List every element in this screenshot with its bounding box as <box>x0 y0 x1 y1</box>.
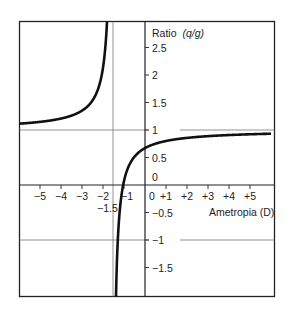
asymptote-label: −1.5 <box>97 202 118 214</box>
axes <box>20 22 275 297</box>
y-tick-label: 1 <box>152 124 158 136</box>
y-tick-label: 0 <box>152 171 158 183</box>
reference-lines <box>20 22 275 297</box>
x-tick-label: −3 <box>76 190 88 202</box>
y-tick-label: 2 <box>152 69 158 81</box>
y-axis-label: Ratio(q/g) <box>152 27 204 39</box>
y-tick-label: −0.5 <box>152 207 173 219</box>
x-tick-label: +5 <box>244 190 256 202</box>
y-tick-label: −1 <box>152 234 164 246</box>
y-tick-label: 1.5 <box>152 97 167 109</box>
curve-branch <box>116 134 271 306</box>
chart: −5−4−3−2−10+1+2+3+4+52.521.510.50−0.5−1−… <box>0 0 287 311</box>
x-tick-label: +4 <box>223 190 235 202</box>
x-tick-label: +2 <box>181 190 193 202</box>
x-tick-label: +3 <box>202 190 214 202</box>
x-tick-label: −5 <box>34 190 46 202</box>
y-tick-label: −1.5 <box>152 262 173 274</box>
x-axis-label: Ametropia (D) <box>209 206 274 218</box>
x-tick-label: 0 <box>149 190 155 202</box>
plot-frame <box>20 22 275 297</box>
y-tick-label: 0.5 <box>152 152 167 164</box>
x-tick-label: −4 <box>55 190 67 202</box>
x-tick-label: −2 <box>97 190 109 202</box>
curve-branch <box>19 0 110 124</box>
y-tick-label: 2.5 <box>152 42 167 54</box>
x-tick-label: +1 <box>160 190 172 202</box>
